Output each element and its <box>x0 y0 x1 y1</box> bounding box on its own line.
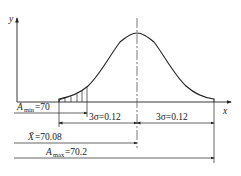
a-max-symbol: A <box>45 147 52 157</box>
a-min-symbol: A <box>16 102 23 112</box>
distribution-diagram: y x A min =70 3σ=0.12 3σ=0.12 <box>0 0 241 176</box>
mean-value: =70.08 <box>35 132 62 142</box>
sigma-right-dimension: 3σ=0.12 <box>137 112 214 123</box>
a-min-subscript: min <box>24 106 35 113</box>
a-max-subscript: max <box>53 151 65 158</box>
a-min-value: =70 <box>35 102 50 112</box>
y-axis: y <box>8 14 17 102</box>
sigma-right-label: 3σ=0.12 <box>156 112 188 122</box>
x-axis-label: x <box>222 106 228 116</box>
a-max-dimension: A max =70.2 <box>14 147 214 158</box>
mean-dimension: X̄ =70.08 <box>14 132 137 143</box>
a-max-value: =70.2 <box>65 147 87 157</box>
sigma-left-label: 3σ=0.12 <box>89 112 121 122</box>
mean-symbol: X̄ <box>27 132 35 142</box>
y-axis-label: y <box>8 14 14 24</box>
sigma-left-dimension: 3σ=0.12 <box>59 112 137 123</box>
a-min-dimension: A min =70 <box>14 102 87 113</box>
